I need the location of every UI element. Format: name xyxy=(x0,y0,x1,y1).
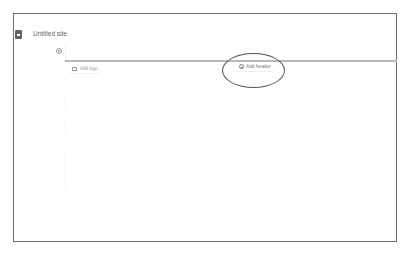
site-title[interactable]: Untitled site xyxy=(33,30,67,37)
side-panel-edge xyxy=(65,120,66,135)
document-icon xyxy=(15,30,22,39)
annotation-ellipse xyxy=(222,53,285,88)
side-panel-edge xyxy=(65,152,66,190)
image-icon xyxy=(72,67,77,71)
gear-icon[interactable] xyxy=(56,48,62,54)
add-logo-button[interactable]: Add logo xyxy=(69,64,101,74)
add-logo-label: Add logo xyxy=(80,66,98,71)
header-section-edge xyxy=(65,44,66,61)
side-panel-edge xyxy=(65,95,66,109)
window-frame xyxy=(13,13,397,242)
